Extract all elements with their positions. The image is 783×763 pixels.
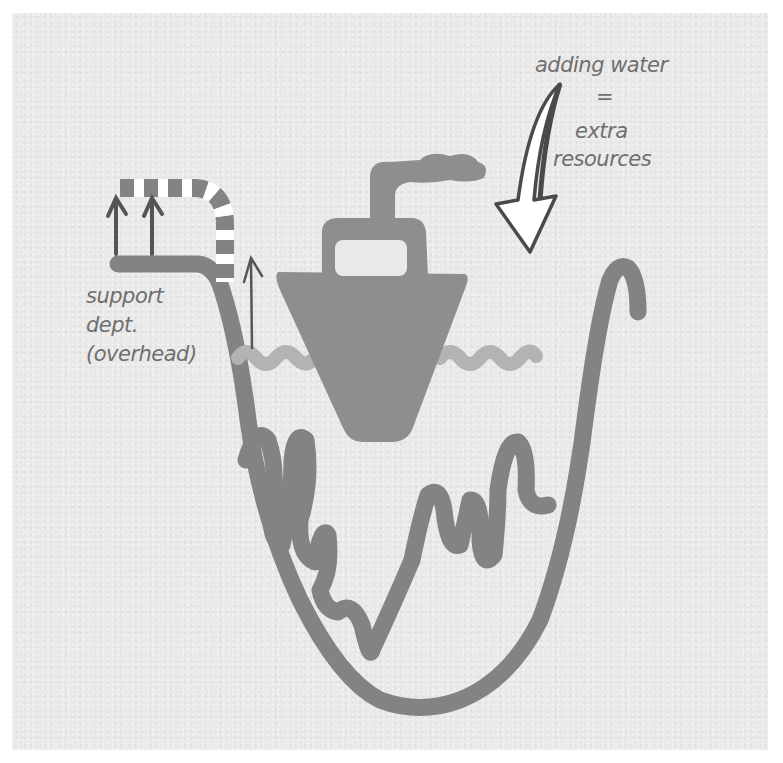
- label-support: support: [86, 284, 164, 308]
- boat-window: [335, 240, 407, 276]
- label-overhead: (overhead): [86, 342, 197, 366]
- rocks-line: [246, 436, 548, 653]
- boat-smoke: [370, 154, 486, 222]
- up-arrow-2: [144, 198, 162, 254]
- diagram-canvas: adding water = extra resources support d…: [0, 0, 783, 763]
- label-adding-water: adding water: [535, 53, 669, 77]
- label-resources: resources: [553, 147, 652, 171]
- water-line-left: [238, 352, 312, 364]
- label-extra: extra: [575, 119, 628, 143]
- label-dept: dept.: [86, 313, 138, 337]
- label-equals: =: [596, 85, 613, 109]
- up-arrow-1: [108, 198, 126, 254]
- up-arrow-water: [244, 258, 262, 348]
- water-line-right: [440, 351, 536, 364]
